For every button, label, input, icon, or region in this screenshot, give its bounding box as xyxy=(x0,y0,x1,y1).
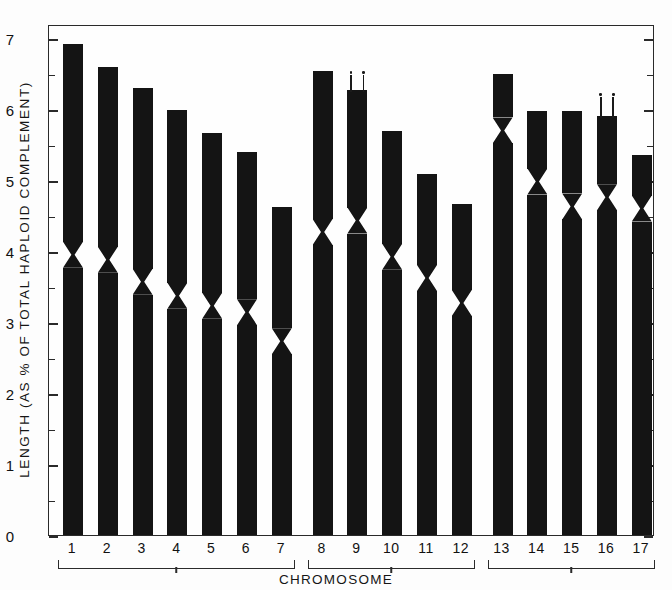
y-tick-minor xyxy=(49,146,55,148)
chromatid-upper-arm xyxy=(527,111,547,169)
x-tick-label-4: 4 xyxy=(172,540,180,556)
chromatid-upper-arm xyxy=(417,174,437,265)
x-tick-label-14: 14 xyxy=(528,540,545,556)
bar-chromosome-3 xyxy=(133,88,153,535)
chromatid-upper-arm xyxy=(272,207,292,328)
chromatid-lower-arm xyxy=(452,316,472,535)
group-bracket-1 xyxy=(58,560,295,569)
y-tick-label: 2 xyxy=(0,386,14,403)
y-tick-major xyxy=(49,465,58,467)
bar-chromosome-12 xyxy=(452,204,472,535)
x-tick-label-10: 10 xyxy=(383,540,400,556)
x-tick-label-16: 16 xyxy=(598,540,615,556)
chromatid-lower-arm xyxy=(202,319,222,535)
centromere-constriction xyxy=(272,328,292,354)
bar-chromosome-2 xyxy=(98,67,118,535)
bar-chromosome-13 xyxy=(493,74,513,535)
centromere-constriction xyxy=(313,219,333,245)
chromatid-upper-arm xyxy=(452,204,472,290)
y-tick-minor-right xyxy=(647,146,653,148)
chromatid-upper-arm xyxy=(347,90,367,208)
bar-chromosome-1 xyxy=(63,44,83,535)
y-tick-label: 7 xyxy=(0,31,14,48)
y-tick-major-right xyxy=(644,39,653,41)
y-axis-title: LENGTH (AS % OF TOTAL HAPLOID COMPLEMENT… xyxy=(17,30,32,530)
y-tick-major-right xyxy=(644,536,653,538)
y-tick-minor-right xyxy=(647,75,653,77)
group-bracket-3 xyxy=(488,560,655,569)
x-tick-label-8: 8 xyxy=(317,540,325,556)
chromatid-lower-arm xyxy=(632,222,652,535)
bar-chromosome-11 xyxy=(417,174,437,535)
chromatid-lower-arm xyxy=(237,325,257,535)
chromatid-upper-arm xyxy=(133,88,153,269)
bar-chromosome-17 xyxy=(632,155,652,535)
bar-chromosome-15 xyxy=(562,111,582,535)
chromatid-upper-arm xyxy=(313,71,333,219)
centromere-constriction xyxy=(202,293,222,319)
x-tick-label-17: 17 xyxy=(633,540,650,556)
y-tick-major xyxy=(49,323,58,325)
group-bracket-2 xyxy=(308,560,475,569)
chromatid-upper-arm xyxy=(382,131,402,244)
x-tick-label-5: 5 xyxy=(207,540,215,556)
error-bar-chromosome-16 xyxy=(597,93,617,118)
y-tick-major xyxy=(49,252,58,254)
bar-chromosome-16 xyxy=(597,116,617,535)
y-tick-label: 3 xyxy=(0,315,14,332)
y-tick-label: 5 xyxy=(0,173,14,190)
y-tick-label: 1 xyxy=(0,457,14,474)
x-tick-label-2: 2 xyxy=(103,540,111,556)
centromere-constriction xyxy=(597,184,617,210)
chromatid-upper-arm xyxy=(493,74,513,118)
chromatid-upper-arm xyxy=(237,152,257,299)
chromatid-lower-arm xyxy=(272,354,292,535)
chromatid-lower-arm xyxy=(562,219,582,535)
chromatid-lower-arm xyxy=(63,268,83,535)
y-tick-minor xyxy=(49,288,55,290)
bar-chromosome-6 xyxy=(237,152,257,535)
chromatid-upper-arm xyxy=(562,111,582,193)
y-tick-minor xyxy=(49,359,55,361)
centromere-constriction xyxy=(562,193,582,219)
x-tick-label-6: 6 xyxy=(242,540,250,556)
error-bar-chromosome-9 xyxy=(347,71,367,92)
bracket-center-tick xyxy=(390,567,392,573)
chromatid-lower-arm xyxy=(493,143,513,535)
y-tick-major xyxy=(49,394,58,396)
centromere-constriction xyxy=(632,196,652,222)
centromere-constriction xyxy=(133,269,153,295)
chromatid-lower-arm xyxy=(417,291,437,535)
chromatid-upper-arm xyxy=(632,155,652,196)
centromere-constriction xyxy=(493,117,513,143)
y-tick-major xyxy=(49,181,58,183)
y-tick-major-right xyxy=(644,110,653,112)
centromere-constriction xyxy=(167,283,187,309)
chromatid-lower-arm xyxy=(382,270,402,535)
plot-inner xyxy=(49,26,653,535)
y-tick-major xyxy=(49,39,58,41)
y-tick-minor xyxy=(49,217,55,219)
bar-chromosome-8 xyxy=(313,71,333,535)
x-tick-label-11: 11 xyxy=(418,540,434,556)
x-tick-label-9: 9 xyxy=(352,540,360,556)
y-tick-minor xyxy=(49,75,55,77)
bar-chromosome-5 xyxy=(202,133,222,535)
chromatid-upper-arm xyxy=(167,110,187,283)
chromatid-upper-arm xyxy=(597,116,617,184)
x-tick-label-13: 13 xyxy=(493,540,510,556)
chromosome-idiogram-figure: LENGTH (AS % OF TOTAL HAPLOID COMPLEMENT… xyxy=(0,0,672,590)
chromatid-lower-arm xyxy=(527,195,547,535)
chromatid-lower-arm xyxy=(347,234,367,535)
bar-chromosome-7 xyxy=(272,207,292,535)
x-tick-label-12: 12 xyxy=(453,540,470,556)
x-tick-label-15: 15 xyxy=(563,540,580,556)
chromatid-upper-arm xyxy=(63,44,83,242)
bar-chromosome-14 xyxy=(527,111,547,535)
x-tick-label-7: 7 xyxy=(277,540,285,556)
chromatid-lower-arm xyxy=(597,210,617,535)
chromatid-lower-arm xyxy=(167,309,187,535)
centromere-constriction xyxy=(237,299,257,325)
y-tick-label: 4 xyxy=(0,244,14,261)
centromere-constriction xyxy=(452,290,472,316)
